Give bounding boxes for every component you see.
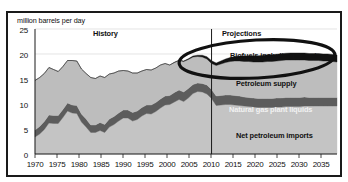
chart-inner: million barrels per day 25 20 15 10 5 0 … xyxy=(8,13,340,175)
chart-frame: million barrels per day 25 20 15 10 5 0 … xyxy=(6,11,342,177)
series-label-biofuels: Biofuels including imports xyxy=(230,51,321,60)
plot-area xyxy=(8,13,340,175)
series-label-net-imports: Net petroleum imports xyxy=(236,131,313,140)
series-label-ngpl: Natural gas plant liquids xyxy=(229,105,312,114)
x-tick-marks xyxy=(35,154,321,158)
projections-label: Projections xyxy=(222,29,261,38)
history-label: History xyxy=(93,29,118,38)
series-label-petroleum-supply: Petroleum supply xyxy=(236,79,296,88)
screenshot-root: million barrels per day 25 20 15 10 5 0 … xyxy=(0,0,348,182)
